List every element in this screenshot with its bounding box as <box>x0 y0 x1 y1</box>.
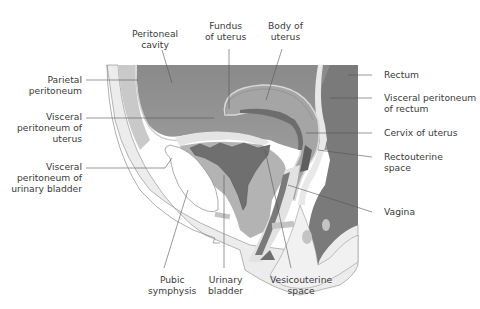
label-vagina: Vagina <box>384 206 415 217</box>
label-visceral-peritoneum-rectum: Visceral peritoneum of rectum <box>384 92 476 114</box>
label-parietal-peritoneum: Parietal peritoneum <box>29 74 82 96</box>
label-urinary-bladder: Urinary bladder <box>208 274 243 296</box>
label-peritoneal-cavity: Peritoneal cavity <box>132 28 178 50</box>
label-rectouterine-space: Rectouterine space <box>384 151 443 173</box>
label-cervix-of-uterus: Cervix of uterus <box>384 127 457 138</box>
label-visceral-peritoneum-uterus: Visceral peritoneum of uterus <box>17 111 82 144</box>
label-body-of-uterus: Body of uterus <box>268 20 303 42</box>
label-fundus-of-uterus: Fundus of uterus <box>205 20 246 42</box>
label-rectum: Rectum <box>384 69 419 80</box>
label-pubic-symphysis: Pubic symphysis <box>148 274 196 296</box>
label-visceral-peritoneum-bladder: Visceral peritoneum of urinary bladder <box>11 161 82 194</box>
label-vesicouterine-space: Vesicouterine space <box>270 274 332 296</box>
